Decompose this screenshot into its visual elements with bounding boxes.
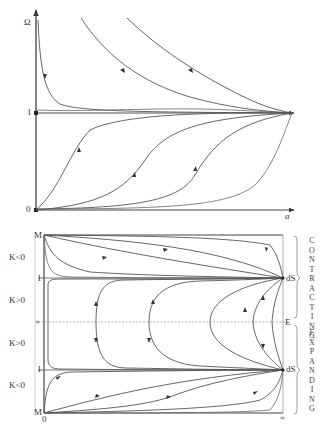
phase-letter: C: [307, 236, 317, 246]
m-bottom-label: M: [34, 408, 42, 417]
arrow-icon: [265, 247, 268, 252]
arrow-icon: [120, 68, 125, 73]
phase-letter: I: [307, 385, 317, 395]
k-neg-top-label: K<0: [9, 253, 25, 262]
phase-letter: C: [307, 293, 317, 303]
phase-letter: N: [307, 395, 317, 405]
tick-one-label: 1: [27, 108, 32, 117]
one-top-label: 1: [37, 274, 42, 283]
trajectory-kpos-bot-2: [96, 322, 283, 370]
ds-point-bottom: [281, 368, 284, 371]
k-neg-bottom-label: K<0: [9, 381, 25, 390]
trajectory-kpos-bot-1: [48, 322, 283, 370]
trajectory-kpos-bot-6: [272, 322, 283, 370]
phase-letter: T: [307, 265, 317, 275]
phase-letter: A: [307, 357, 317, 367]
expanding-label: EXPANDING: [307, 328, 317, 414]
trajectory-kpos-top-4: [210, 278, 283, 322]
m-top-label: M: [34, 231, 42, 240]
k-pos-bottom-label: K>0: [9, 339, 25, 348]
phase-letter: T: [307, 303, 317, 313]
phase-diagram-canvas: [0, 0, 328, 427]
trajectory-above-3: [127, 18, 292, 113]
phase-letter: A: [307, 284, 317, 294]
trajectory-kneg-bot-3: [44, 370, 283, 413]
arrow-icon: [243, 307, 247, 312]
phase-letter: O: [307, 246, 317, 256]
phase-letter: R: [307, 274, 317, 284]
arrow-icon: [95, 394, 100, 398]
arrow-icon: [147, 338, 151, 343]
trajectory-below-2: [36, 113, 292, 210]
a-axis-label: a: [285, 212, 290, 221]
phase-letter: N: [307, 255, 317, 265]
contracting-text: CONTRACTING: [307, 236, 317, 341]
trajectory-kpos-top-1: [48, 278, 283, 322]
phase-letter: I: [307, 312, 317, 322]
ds-top-label: dS: [286, 274, 296, 283]
trajectory-below-3: [36, 113, 292, 209]
zero-bottom-label: 0: [42, 415, 47, 424]
ds-point-top: [281, 276, 284, 279]
arrow-icon: [77, 147, 81, 152]
one-bottom-label: 1: [37, 365, 42, 374]
phase-letter: E: [307, 328, 317, 338]
arrow-icon: [102, 256, 107, 260]
arrow-icon: [163, 248, 168, 252]
phase-letter: P: [307, 347, 317, 357]
arrow-icon: [166, 395, 171, 399]
trajectory-kpos-top-5: [253, 278, 283, 322]
phase-letter: X: [307, 338, 317, 348]
infinity-right-label: ∞: [280, 414, 285, 423]
e-label: E: [285, 318, 291, 327]
arrow-icon: [193, 166, 197, 171]
arrow-icon: [253, 391, 258, 395]
expanding-text: EXPANDING: [307, 328, 317, 414]
omega-axis-label: Ω: [24, 18, 31, 27]
phase-letter: N: [307, 366, 317, 376]
trajectory-kpos-bot-4: [210, 322, 283, 370]
trajectory-below-1: [36, 113, 292, 210]
fixed-point-one: [34, 111, 38, 115]
infinity-left-label: ∞: [35, 318, 40, 327]
trajectory-kneg-top-1: [44, 235, 283, 278]
trajectory-above-1: [38, 20, 292, 113]
ds-bottom-label: dS: [286, 365, 296, 374]
k-pos-top-label: K>0: [9, 296, 25, 305]
trajectory-above-2: [81, 18, 292, 113]
bottom-panel: [35, 235, 300, 414]
top-panel: [34, 10, 294, 212]
trajectory-below-4: [36, 113, 292, 209]
phase-letter: G: [307, 404, 317, 414]
contracting-label: CONTRACTING: [307, 236, 317, 341]
tick-zero-label: 0: [26, 205, 31, 214]
phase-letter: D: [307, 376, 317, 386]
